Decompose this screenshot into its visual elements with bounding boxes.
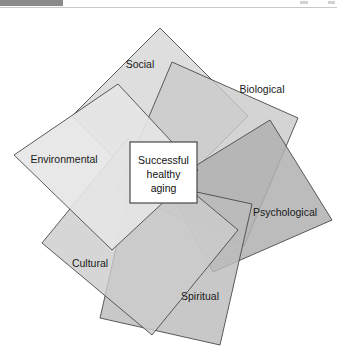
center-line-3: aging [151,182,177,194]
label-spiritual: Spiritual [181,290,219,302]
center-line-2: healthy [147,168,182,180]
viewer-strip-progress [0,0,63,6]
label-biological: Biological [240,83,285,95]
label-cultural: Cultural [72,257,108,269]
center-line-1: Successful [138,154,189,166]
viewer-strip-mark-left [300,1,308,4]
label-social: Social [126,58,155,70]
viewer-strip-mark-right [328,1,335,4]
diagram-figure: Social Biological Psychological Spiritua… [0,8,337,350]
successful-healthy-aging-diagram: Social Biological Psychological Spiritua… [0,8,337,350]
page-root: Social Biological Psychological Spiritua… [0,0,337,350]
label-psychological: Psychological [253,206,317,218]
viewer-top-strip [0,0,337,8]
label-environmental: Environmental [30,153,97,165]
